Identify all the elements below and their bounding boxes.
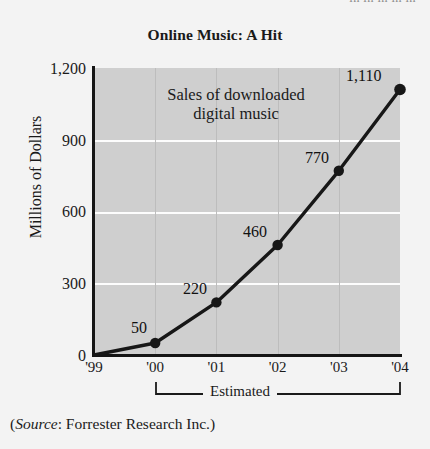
source-note-rest: : Forrester Research Inc.) — [58, 415, 216, 432]
data-point-00 — [150, 338, 160, 348]
source-note: (Source: Forrester Research Inc.) — [10, 415, 215, 433]
estimated-bracket-label: Estimated — [0, 381, 430, 396]
data-point-01 — [211, 297, 221, 307]
data-label-04: 1,110 — [346, 68, 381, 84]
chart-figure: in in in in in Online Music: A Hit 1,200… — [0, 0, 430, 449]
data-label-03: 770 — [305, 150, 329, 166]
data-point-03 — [334, 166, 344, 176]
data-label-02: 460 — [243, 224, 267, 240]
data-label-00: 50 — [131, 320, 147, 336]
data-point-02 — [272, 240, 282, 250]
data-label-01: 220 — [183, 281, 207, 297]
estimated-bracket-label-text: Estimated — [203, 383, 277, 399]
source-note-italic: Source — [15, 415, 57, 432]
data-point-04 — [394, 84, 406, 96]
